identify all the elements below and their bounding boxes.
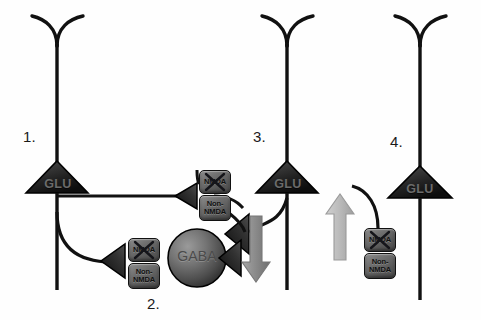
receptor-non-nmda-1[interactable]: Non- NMDA	[199, 195, 231, 221]
neuron-1-dendrite-branch-right	[57, 16, 83, 46]
neuron-1-soma-label: GLU	[38, 177, 78, 191]
neuron-1-axon-terminal-lower	[101, 244, 125, 278]
receptor-non-nmda-2[interactable]: Non- NMDA	[128, 263, 160, 289]
neuron-2-soma-label: GABA	[161, 248, 233, 264]
neuron-3-dendrite-branch-left	[262, 16, 287, 46]
neuron-4-basal-dendrite	[352, 186, 378, 228]
receptor-nmda-1-label: NMDA	[204, 178, 226, 186]
receptor-non-nmda-1-label: Non- NMDA	[204, 200, 226, 217]
up-arrow-icon	[326, 194, 354, 260]
label-neuron-3: 3.	[253, 128, 266, 145]
neuron-4-dendrite-branch-left	[395, 16, 420, 46]
neuron-1-axon-terminal-upper	[175, 183, 197, 209]
label-neuron-4: 4.	[390, 133, 403, 150]
neuron-3-dendrite-branch-right	[287, 16, 313, 46]
receptor-nmda-2-label: NMDA	[133, 246, 155, 254]
receptor-non-nmda-3-label: Non- NMDA	[369, 258, 391, 275]
receptor-nmda-2[interactable]: NMDA	[128, 238, 160, 262]
receptor-non-nmda-2-label: Non- NMDA	[133, 268, 155, 285]
receptor-nmda-3-label: NMDA	[369, 236, 391, 244]
receptor-nmda-1[interactable]: NMDA	[199, 170, 231, 194]
neuron-1-dendrite-branch-left	[32, 16, 57, 46]
receptor-nmda-3[interactable]: NMDA	[364, 228, 396, 252]
label-neuron-1: 1.	[23, 128, 36, 145]
neural-circuit-svg	[0, 0, 481, 320]
arrow-increase-activity	[326, 194, 354, 260]
neuron-1-axon-collateral-curved	[57, 212, 112, 262]
diagram-canvas: NMDA Non- NMDA NMDA Non- NMDA NMDA Non- …	[0, 0, 481, 320]
receptor-non-nmda-3[interactable]: Non- NMDA	[364, 253, 396, 279]
neuron-3-soma-label: GLU	[268, 177, 308, 191]
label-neuron-2: 2.	[147, 295, 160, 312]
neuron-4-soma-label: GLU	[400, 182, 440, 196]
neuron-4-dendrite-branch-right	[420, 16, 446, 46]
